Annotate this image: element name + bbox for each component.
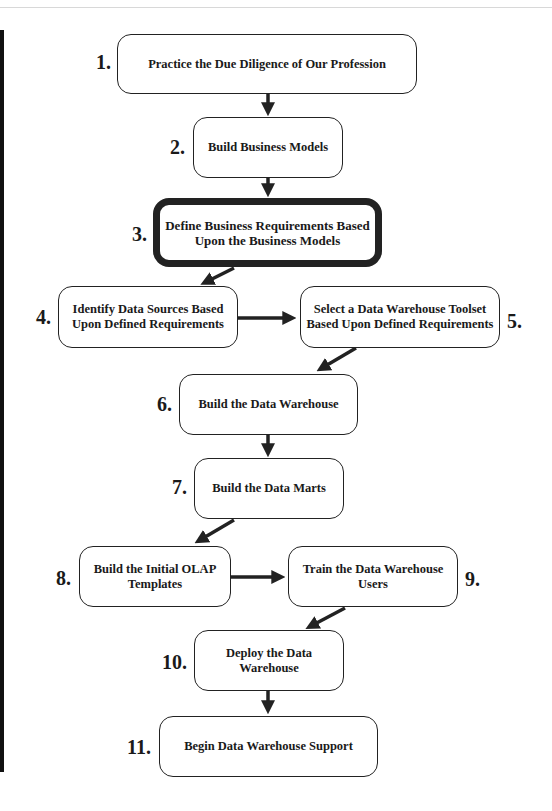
- step-box-7[interactable]: Build the Data Marts: [194, 458, 344, 519]
- step-box-6[interactable]: Build the Data Warehouse: [179, 374, 358, 435]
- step-number-1: 1.: [96, 52, 111, 72]
- step-box-4[interactable]: Identify Data Sources Based Upon Defined…: [58, 286, 238, 348]
- arrow-3-4: [206, 268, 234, 282]
- step-number-8: 8.: [56, 568, 71, 588]
- step-number-5: 5.: [507, 311, 522, 331]
- step-number-7: 7.: [172, 477, 187, 497]
- step-number-3: 3.: [132, 224, 147, 244]
- step-number-10: 10.: [162, 652, 187, 672]
- step-number-11: 11.: [127, 737, 151, 757]
- step-box-10[interactable]: Deploy the Data Warehouse: [194, 630, 344, 691]
- step-box-9[interactable]: Train the Data Warehouse Users: [288, 546, 458, 607]
- step-number-4: 4.: [36, 307, 51, 327]
- arrow-9-10: [311, 608, 345, 626]
- step-box-5[interactable]: Select a Data Warehouse Toolset Based Up…: [300, 286, 500, 348]
- arrow-5-6: [322, 348, 356, 368]
- step-number-6: 6.: [157, 394, 172, 414]
- arrow-7-8: [200, 520, 234, 540]
- step-box-1[interactable]: Practice the Due Diligence of Our Profes…: [117, 34, 417, 94]
- step-box-3-highlighted[interactable]: Define Business Requirements Based Upon …: [153, 198, 382, 267]
- step-number-2: 2.: [170, 137, 185, 157]
- step-number-9: 9.: [465, 569, 480, 589]
- step-box-8[interactable]: Build the Initial OLAP Templates: [79, 546, 231, 607]
- step-box-11[interactable]: Begin Data Warehouse Support: [159, 716, 378, 777]
- step-box-2[interactable]: Build Business Models: [193, 117, 343, 178]
